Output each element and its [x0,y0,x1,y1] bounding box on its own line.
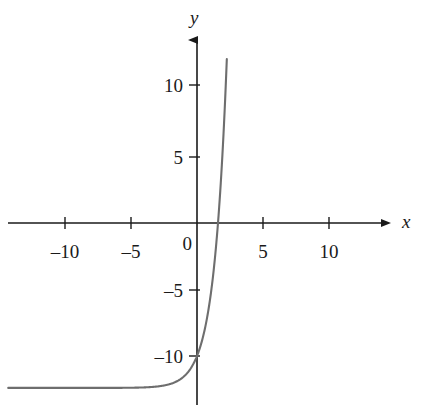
y-tick-label-10: 10 [164,76,183,95]
y-axis-label: y [190,8,198,27]
x-tick-label-10: 10 [320,242,339,261]
exponential-graph-figure: –10 –5 5 10 0 10 5 –5 –10 x y [0,0,424,416]
x-axis-label: x [402,212,410,231]
y-axis-ticks [189,85,200,356]
plot-canvas [0,0,424,416]
y-tick-label--10: –10 [155,347,184,366]
y-tick-label-5: 5 [174,148,184,167]
y-tick-label--5: –5 [164,281,183,300]
x-tick-label--5: –5 [122,242,141,261]
x-tick-label-5: 5 [258,242,268,261]
x-tick-label--10: –10 [51,242,80,261]
origin-label: 0 [183,234,193,253]
